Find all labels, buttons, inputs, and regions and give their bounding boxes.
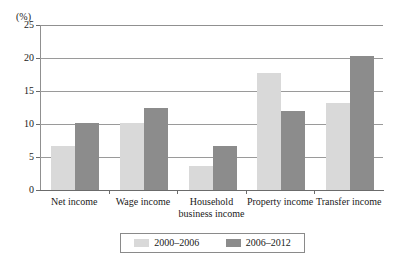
bar [281,111,305,190]
x-axis-label-line: Transfer income [306,196,391,208]
y-tick-label: 20 [4,53,34,63]
bar [189,166,213,190]
y-tick-label: 5 [4,152,34,162]
legend: 2000–20062006–2012 [120,233,305,253]
x-axis-label-line: business income [169,208,254,220]
x-axis-label: Transfer income [306,196,391,208]
legend-item: 2006–2012 [226,238,291,248]
bars-layer [41,25,383,190]
legend-swatch-icon [134,239,149,247]
bar [326,103,350,190]
y-tick-label: 0 [4,185,34,195]
y-tick-mark [36,91,40,92]
bar [213,146,237,190]
legend-swatch-icon [226,239,241,247]
x-tick-mark [246,190,247,194]
y-tick-label: 10 [4,119,34,129]
x-tick-mark [314,190,315,194]
legend-item: 2000–2006 [134,238,199,248]
x-tick-mark [109,190,110,194]
bar [75,123,99,190]
y-tick-mark [36,190,40,191]
bar [350,56,374,190]
x-axis-line [40,190,384,191]
x-tick-mark [177,190,178,194]
bar [257,73,281,190]
bar-chart: (%) 0510152025 Net incomeWage incomeHous… [0,0,416,269]
bar [144,108,168,191]
y-tick-label: 25 [4,20,34,30]
legend-label: 2000–2006 [154,238,199,248]
y-tick-mark [36,25,40,26]
y-tick-mark [36,157,40,158]
y-tick-mark [36,124,40,125]
y-tick-mark [36,58,40,59]
bar [120,123,144,190]
y-tick-label: 15 [4,86,34,96]
legend-label: 2006–2012 [246,238,291,248]
bar [51,146,75,190]
